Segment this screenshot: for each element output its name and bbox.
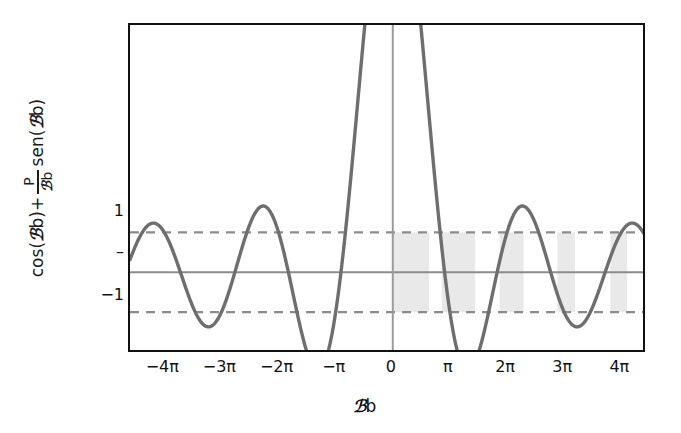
x-tick-label-5: π [418, 359, 478, 375]
y-tick-label-1: 1 [88, 203, 124, 219]
script-k-icon-3: ℬ [39, 181, 55, 192]
plot-canvas [130, 25, 643, 350]
fraction-denominator-b: b [39, 172, 55, 181]
x-axis-label: ℬb [0, 396, 681, 416]
x-tick-label-0: −4π [132, 359, 192, 375]
fraction-numerator: P [22, 175, 36, 188]
x-tick-label-6: 2π [475, 359, 535, 375]
fraction-p-over-kb: Pℬb [22, 170, 54, 194]
chart-figure: cos(ℬb)+Pℬbsen(ℬb) 1 – −1 −4π−3π−2π−π0π2… [0, 0, 681, 433]
y-tick-label-neg-1: −1 [88, 287, 124, 303]
script-k-icon-x: ℬ [353, 396, 366, 416]
y-axis-label: cos(ℬb)+Pℬbsen(ℬb) [17, 33, 57, 343]
y-axis-label-mid: b)+ [27, 197, 47, 229]
x-tick-label-4: 0 [361, 359, 421, 375]
y-axis-label-tail: b) [27, 99, 47, 117]
x-tick-label-1: −3π [189, 359, 249, 375]
x-axis-label-text: ℬb [353, 396, 377, 416]
x-tick-label-7: 3π [532, 359, 592, 375]
y-axis-label-suffix: sen( [27, 129, 47, 166]
plot-area [128, 23, 645, 352]
fraction-denominator: ℬb [40, 170, 54, 194]
script-k-icon-2: ℬ [27, 116, 47, 129]
x-axis-ticks: −4π−3π−2π−π0π2π3π4π [0, 359, 681, 387]
x-tick-label-8: 4π [589, 359, 649, 375]
chart-svg [130, 25, 645, 352]
x-tick-label-3: −π [304, 359, 364, 375]
y-tick-label-0: – [88, 244, 124, 260]
y-axis-label-prefix: cos( [27, 242, 47, 278]
x-tick-label-2: −2π [247, 359, 307, 375]
script-k-icon-1: ℬ [27, 229, 47, 242]
